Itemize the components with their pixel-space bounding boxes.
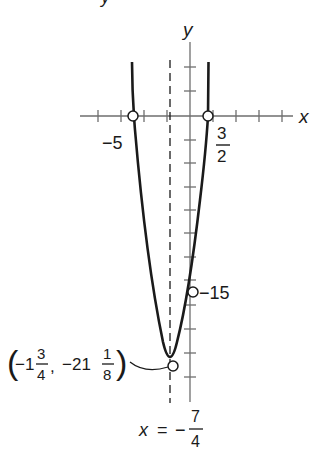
svg-text:=: =	[157, 420, 168, 440]
svg-text:3: 3	[217, 124, 226, 143]
svg-text:−21: −21	[62, 355, 91, 374]
vertex-leader-line	[130, 362, 168, 370]
svg-text:1: 1	[103, 345, 111, 362]
svg-text:2: 2	[217, 147, 226, 166]
svg-text:4: 4	[37, 366, 45, 383]
svg-text:−: −	[175, 420, 186, 440]
parabola-graph: y x y −5 3	[0, 0, 312, 452]
svg-text:−1: −1	[15, 355, 34, 374]
x-intercept-right-point	[203, 111, 213, 121]
svg-text:7: 7	[191, 408, 200, 425]
vertex-label: ( −1 3 4 , −21 1 8 )	[7, 343, 127, 383]
y-intercept-label: −15	[199, 283, 230, 303]
cropped-y-label: y	[99, 0, 111, 7]
x-axis-label: x	[298, 106, 310, 127]
vertex-point	[168, 361, 178, 371]
axis-of-symmetry-label: x = − 7 4	[138, 408, 203, 450]
y-axis	[184, 42, 196, 402]
svg-text:): )	[116, 343, 127, 381]
svg-text:8: 8	[103, 366, 111, 383]
x-axis	[80, 110, 293, 122]
x-intercept-left-point	[128, 111, 138, 121]
y-axis-label: y	[181, 19, 194, 40]
right-intercept-label: 3 2	[216, 124, 230, 166]
svg-text:4: 4	[191, 433, 200, 450]
svg-text:x: x	[138, 420, 149, 440]
y-intercept-point	[188, 287, 198, 297]
svg-text:,: ,	[50, 357, 55, 376]
svg-text:3: 3	[37, 345, 45, 362]
left-intercept-label: −5	[102, 133, 123, 153]
